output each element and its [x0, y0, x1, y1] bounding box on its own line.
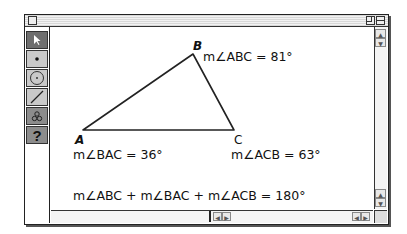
question-icon: ?: [32, 127, 41, 144]
angle-sum-calculation[interactable]: m∠ABC + m∠BAC + m∠ACB = 180°: [73, 188, 305, 203]
scroll-down-button[interactable]: ▼: [375, 38, 386, 47]
horizontal-scrollbar[interactable]: ◀ ▶ ◀ ▶: [51, 210, 373, 223]
split-bar[interactable]: [209, 211, 211, 222]
compass-tool[interactable]: [26, 69, 48, 87]
scroll-up-button-bottom[interactable]: ▲: [375, 189, 386, 198]
measure-angle-abc[interactable]: m∠ABC = 81°: [203, 49, 293, 64]
arrow-tool[interactable]: [26, 31, 48, 49]
sketch-canvas[interactable]: B m∠ABC = 81° A C m∠BAC = 36° m∠ACB = 63…: [51, 27, 373, 209]
straightedge-tool[interactable]: [26, 88, 48, 106]
vertex-label-a: A: [75, 133, 84, 147]
scroll-left-button[interactable]: ◀: [213, 212, 222, 221]
scroll-left-button-end[interactable]: ◀: [352, 212, 361, 221]
title-bar[interactable]: [25, 15, 388, 27]
resize-grow-box[interactable]: [374, 210, 387, 223]
information-tool[interactable]: ?: [26, 126, 48, 144]
vertex-label-c: C: [234, 133, 242, 147]
custom-tool[interactable]: [26, 107, 48, 125]
custom-icon: [31, 110, 43, 122]
sketch-window: ? B m∠ABC = 81° A C m∠BAC = 36° m∠ACB = …: [24, 14, 389, 225]
arrow-icon: [32, 34, 42, 46]
toolbox: ?: [26, 27, 50, 223]
measure-angle-acb[interactable]: m∠ACB = 63°: [231, 147, 321, 162]
vertical-scrollbar[interactable]: ▲ ▼ ▲ ▼: [374, 27, 387, 209]
line-icon: [29, 89, 45, 105]
measure-angle-bac[interactable]: m∠BAC = 36°: [73, 147, 163, 162]
zoom-box-icon[interactable]: [366, 16, 375, 25]
point-icon: [32, 54, 42, 64]
scroll-right-button-end[interactable]: ▶: [361, 212, 370, 221]
collapse-box-icon[interactable]: [376, 16, 385, 25]
compass-icon: [29, 70, 45, 86]
scroll-right-button[interactable]: ▶: [222, 212, 231, 221]
scroll-up-button[interactable]: ▲: [375, 29, 386, 38]
vertex-label-b: B: [193, 39, 202, 53]
close-box-icon[interactable]: [28, 16, 37, 25]
point-tool[interactable]: [26, 50, 48, 68]
scroll-down-button-bottom[interactable]: ▼: [375, 198, 386, 207]
